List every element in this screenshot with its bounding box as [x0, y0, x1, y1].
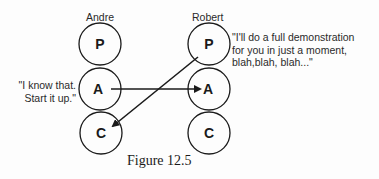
figure-caption: Figure 12.5	[127, 153, 192, 169]
parent-to-child-arrow	[113, 57, 198, 126]
robert-quote-line-2: for you in just a moment,	[232, 44, 354, 57]
figure-canvas: P A C P A C Andre Robert "I know that. S…	[0, 0, 379, 179]
andre-quote: "I know that. Start it up."	[8, 79, 76, 104]
robert-adult-label: A	[203, 81, 213, 97]
robert-quote-line-3: blah,blah, blah..."	[232, 56, 354, 69]
andre-quote-line-1: "I know that.	[8, 79, 76, 92]
andre-parent-label: P	[95, 36, 104, 52]
robert-quote: "I'll do a full demonstration for you in…	[232, 31, 354, 69]
robert-name-label: Robert	[192, 11, 224, 24]
robert-child-label: C	[204, 125, 214, 141]
andre-adult-label: A	[93, 81, 103, 97]
andre-name-label: Andre	[86, 11, 114, 24]
andre-quote-line-2: Start it up."	[8, 92, 76, 105]
robert-parent-label: P	[204, 36, 213, 52]
andre-child-label: C	[96, 125, 106, 141]
robert-quote-line-1: "I'll do a full demonstration	[232, 31, 354, 44]
